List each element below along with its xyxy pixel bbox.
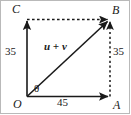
right-side-length-label: 35 [113, 46, 124, 57]
corner-label-C: C [12, 3, 20, 15]
left-side-length-label: 35 [5, 46, 16, 57]
bottom-side-length-label: 45 [57, 97, 68, 108]
corner-label-B: B [112, 4, 119, 16]
angle-label: θ [34, 83, 39, 94]
corner-label-A: A [113, 99, 120, 111]
resultant-vector-label: u + v [44, 41, 67, 52]
vector-diagram-figure: C B O A 35 35 45 u + v θ [0, 0, 131, 115]
edge-O-to-B-resultant [28, 22, 108, 97]
corner-label-O: O [13, 98, 22, 110]
